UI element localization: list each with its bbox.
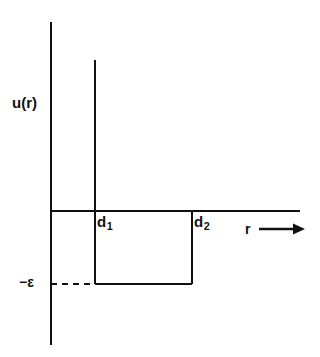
well-depth-label: −ε <box>19 275 34 289</box>
potential-plot-svg <box>0 0 320 357</box>
d1-symbol: d <box>97 213 106 230</box>
d2-symbol: d <box>194 213 203 230</box>
d1-subscript: 1 <box>107 220 113 232</box>
arrow-right-icon <box>259 224 305 235</box>
square-well-potential-figure: u(r) d1 d2 −ε r <box>0 0 320 357</box>
d2-tick-label: d2 <box>194 214 210 232</box>
d2-subscript: 2 <box>204 220 210 232</box>
y-axis-label: u(r) <box>12 95 37 110</box>
d1-tick-label: d1 <box>97 214 113 232</box>
x-axis-label: r <box>245 222 250 236</box>
